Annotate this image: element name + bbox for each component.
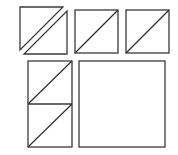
quilt-diagram bbox=[0, 0, 178, 155]
diagonal-line-2 bbox=[28, 104, 72, 147]
hst-stack-piece bbox=[28, 61, 72, 147]
plain-square-outline bbox=[79, 61, 165, 147]
hst-square-2-piece bbox=[126, 10, 169, 53]
diagonal-line-1 bbox=[28, 61, 72, 104]
triangle-1 bbox=[20, 7, 63, 50]
diagonal-line bbox=[126, 10, 169, 53]
plain-square-piece bbox=[79, 61, 165, 147]
hst-square-1-piece bbox=[75, 10, 118, 53]
triangle-2 bbox=[24, 11, 67, 54]
diagonal-line bbox=[75, 10, 118, 53]
split-square-piece bbox=[20, 7, 67, 54]
